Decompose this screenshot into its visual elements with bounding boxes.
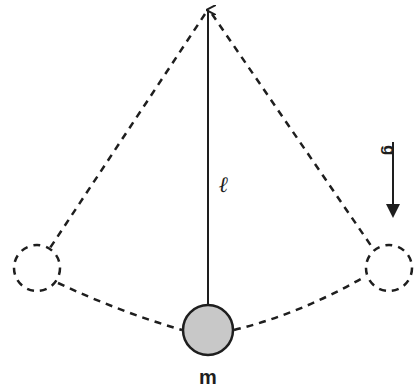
pendulum-diagram: ℓ m g <box>0 0 419 390</box>
left-extreme-string <box>50 14 205 248</box>
right-extreme-position <box>366 245 412 291</box>
gravity-arrow-head <box>386 204 400 218</box>
mass-label: m <box>199 367 217 387</box>
swing-arc-left <box>58 283 182 330</box>
length-label: ℓ <box>219 173 228 195</box>
swing-arc-right <box>234 276 366 330</box>
right-extreme-string <box>212 14 374 250</box>
pendulum-bob <box>183 305 233 355</box>
diagram-canvas <box>0 0 419 390</box>
gravity-label: g <box>381 145 398 155</box>
left-extreme-position <box>14 245 60 291</box>
